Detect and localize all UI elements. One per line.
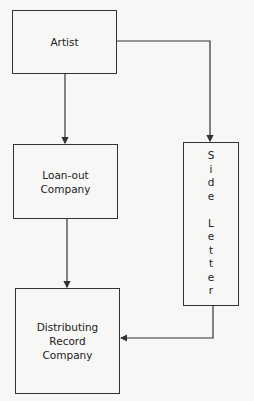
side-letter-char: e [208,271,214,285]
side-letter-char: e [208,230,214,244]
loanout-label-line2: Company [41,182,91,196]
side-letter-box: S i d e L e t t e r [183,142,239,306]
distributor-label-line2: Record [49,334,85,348]
artist-box: Artist [12,10,117,74]
side-letter-char: S [208,149,215,163]
side-letter-char: r [209,284,213,298]
distributor-label-line3: Company [43,348,93,362]
side-letter-char: L [208,217,214,231]
edge-artist-sideletter [117,41,210,141]
side-letter-char: t [209,257,213,271]
loanout-label-line1: Loan-out [42,168,88,182]
edge-sideletter-distributor [121,306,213,338]
distributor-label-line1: Distributing [37,320,99,334]
distributing-record-company-box: Distributing Record Company [15,288,120,394]
side-letter-char: i [210,163,213,177]
side-letter-char: e [208,190,214,204]
side-letter-char: t [209,244,213,258]
side-letter-char: d [208,176,215,190]
side-letter-gap [209,203,212,217]
artist-label: Artist [50,35,78,49]
loanout-company-box: Loan-out Company [13,144,118,219]
